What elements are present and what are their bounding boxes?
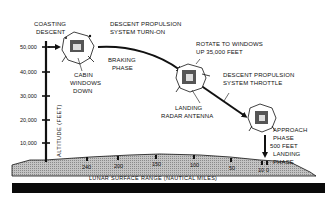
- x-tick-200: 200: [114, 163, 123, 169]
- label-dps-turn-on: DESCENT PROPULSION SYSTEM TURN-ON: [110, 21, 183, 35]
- label-dps-throttle: DESCENT PROPULSION SYSTEM THROTTLE: [223, 72, 296, 86]
- y-tick-50000: 50,000: [20, 44, 37, 50]
- bottom-bar: [12, 183, 325, 193]
- lunar-module-icon-1: [62, 32, 94, 64]
- label-landing-phase: LANDING PHASE: [273, 151, 302, 165]
- x-tick-150: 150: [152, 161, 161, 167]
- x-axis-title: LUNAR SURFACE RANGE (NAUTICAL MILES): [89, 175, 217, 181]
- leader-radar: [192, 90, 200, 103]
- x-tick-240: 240: [82, 164, 91, 170]
- y-tick-40000: 40,000: [20, 69, 37, 75]
- label-approach-phase: APPROACH PHASE: [273, 127, 309, 141]
- label-cabin-windows-down: CABIN WINDOWS DOWN: [70, 72, 103, 94]
- x-tick-100: 100: [190, 162, 199, 168]
- y-tick-10000: 10,000: [20, 140, 37, 146]
- lunar-module-icon-3: [248, 104, 276, 132]
- descent-profile-diagram: 50,000 40,000 30,000 20,000 10,000 ALTIT…: [0, 0, 325, 199]
- label-rotate-windows-up: ROTATE TO WINDOWS UP 35,000 FEET: [196, 41, 265, 55]
- x-tick-10: 10: [258, 167, 264, 173]
- label-500-feet: 500 FEET: [270, 143, 298, 149]
- altitude-axis: 50,000 40,000 30,000 20,000 10,000 ALTIT…: [20, 41, 62, 162]
- leader-throttle: [224, 93, 229, 101]
- leader-rotate: [196, 59, 200, 64]
- y-tick-30000: 30,000: [20, 93, 37, 99]
- x-tick-0: 0: [266, 167, 269, 173]
- x-tick-50: 50: [229, 165, 235, 171]
- label-braking-phase: BRAKING PHASE: [108, 57, 138, 71]
- label-coasting-descent: COASTING DESCENT: [34, 21, 68, 35]
- label-landing-radar-antenna: LANDING RADAR ANTENNA: [161, 105, 213, 119]
- y-axis-title: ALTITUDE (FEET): [56, 104, 62, 157]
- y-tick-20000: 20,000: [20, 117, 37, 123]
- approach-trajectory-arrow: [200, 85, 245, 116]
